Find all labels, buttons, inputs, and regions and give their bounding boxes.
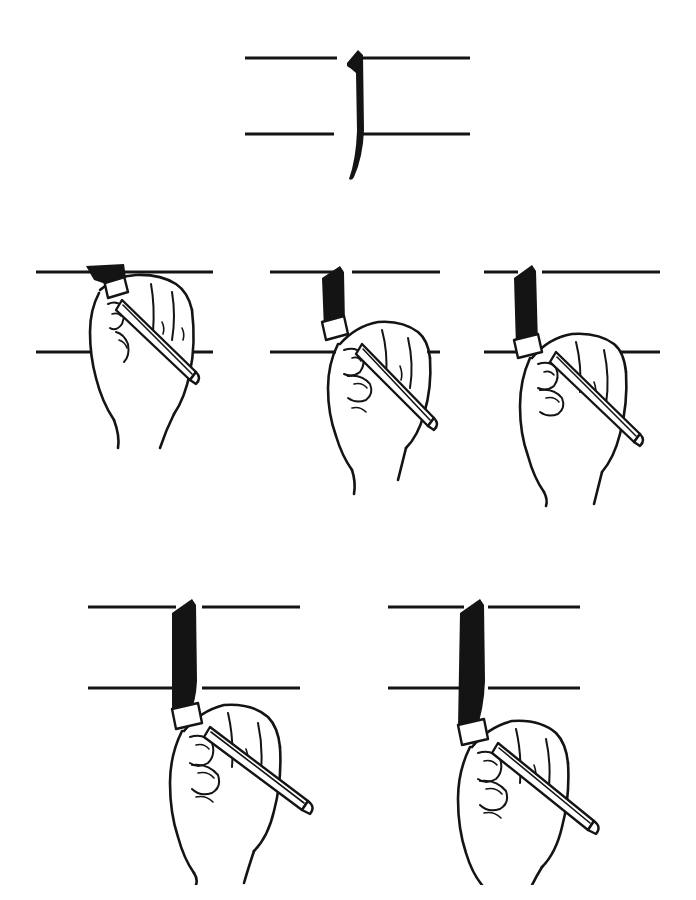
hand-outline-wrist-right [532,867,542,885]
hand-outline-wrist-left [114,420,119,448]
pen-nib-holder [458,719,488,745]
panel-step-3 [468,248,696,508]
hand-outline-wrist-right [594,472,602,504]
panel-finished-stroke [230,25,490,195]
calligraphy-stroke-partial [172,599,197,713]
hand-outline-wrist-left [194,873,197,885]
hand-outline-wrist-left [352,470,355,494]
calligraphy-stroke [347,50,364,180]
pen-nib-holder [172,703,202,729]
instruction-plate: Vertical downstroke — step by step compl… [0,0,696,900]
panel-step-1 [20,248,245,488]
hand-outline-wrist-right [398,448,406,480]
hand-outline-wrist-right [244,851,254,883]
hand-outline-wrist-left [544,492,547,506]
panel-step-2 [252,248,477,498]
calligraphy-stroke-complete [458,599,485,731]
panel-step-4 [72,585,322,885]
panel-step-5 [372,585,622,885]
